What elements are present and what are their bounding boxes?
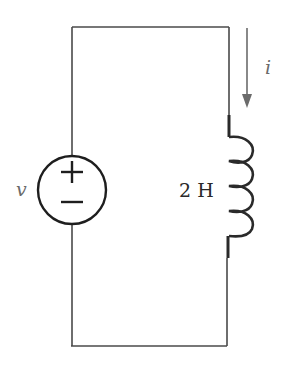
inductor (228, 115, 253, 258)
inductor-label: 2 H (179, 179, 214, 201)
current-arrow (242, 28, 252, 108)
current-label: i (265, 56, 271, 78)
circuit-diagram: v 2 H i (0, 0, 281, 366)
source-label: v (16, 178, 27, 200)
voltage-source (38, 156, 106, 224)
current-arrow-head (242, 94, 252, 108)
inductor-coil (229, 137, 253, 237)
